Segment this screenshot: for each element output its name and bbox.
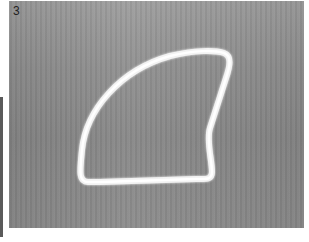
- figure-number-label: 3: [13, 4, 20, 18]
- fin-outline-shape: [0, 0, 309, 242]
